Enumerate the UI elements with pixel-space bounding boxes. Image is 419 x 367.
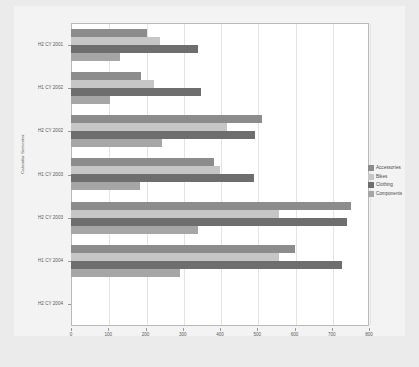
legend-item[interactable]: Clothing (368, 181, 402, 189)
bar (71, 158, 214, 166)
bar (71, 123, 227, 131)
x-axis-tick-mark (146, 328, 147, 331)
x-axis-tick-mark (220, 328, 221, 331)
legend-item-label: Bikes (376, 174, 387, 180)
bar (71, 96, 110, 104)
y-axis-tick-mark (68, 175, 71, 176)
bar (71, 174, 254, 182)
bar (71, 269, 180, 277)
bar-group (71, 23, 369, 66)
x-axis-tick-label: 700 (328, 332, 336, 337)
legend-item-label: Clothing (376, 182, 393, 188)
report-canvas: H2 CY 2001H1 CY 2002H2 CY 2002H1 CY 2003… (14, 6, 405, 336)
bar-group (71, 110, 369, 153)
bar (71, 88, 201, 96)
bars-layer (71, 23, 369, 326)
legend-swatch-icon (368, 165, 374, 171)
y-axis-tick-label: H1 CY 2003 (38, 172, 68, 178)
y-axis-tick-labels: H2 CY 2001H1 CY 2002H2 CY 2002H1 CY 2003… (14, 23, 68, 326)
bar (71, 131, 255, 139)
x-axis-tick-label: 200 (142, 332, 150, 337)
y-axis-tick-label: H2 CY 2003 (38, 215, 68, 221)
bar-group (71, 196, 369, 239)
chart-legend: AccessoriesBikesClothingComponents (366, 162, 404, 200)
x-axis-tick-label: 0 (70, 332, 73, 337)
bar-group (71, 153, 369, 196)
x-axis-tick-label: 300 (179, 332, 187, 337)
legend-swatch-icon (368, 182, 374, 188)
y-axis-tick-label: H1 CY 2002 (38, 85, 68, 91)
bar (71, 80, 154, 88)
y-axis-tick-mark (68, 45, 71, 46)
y-axis-tick-mark (68, 88, 71, 89)
legend-swatch-icon (368, 191, 374, 197)
bar (71, 253, 279, 261)
bar (71, 166, 220, 174)
x-axis-tick-mark (257, 328, 258, 331)
x-axis-tick-mark (108, 328, 109, 331)
bar (71, 115, 262, 123)
bar (71, 29, 147, 37)
y-axis-tick-label: H2 CY 2001 (38, 42, 68, 48)
y-axis-tick-mark (68, 261, 71, 262)
x-axis-tick-mark (295, 328, 296, 331)
legend-item-label: Components (376, 191, 402, 197)
legend-swatch-icon (368, 174, 374, 180)
y-axis-tick-label: H2 CY 2002 (38, 128, 68, 134)
bar (71, 182, 140, 190)
bar (71, 45, 198, 53)
y-axis-tick-label: H2 CY 2004 (38, 301, 68, 307)
bar (71, 53, 120, 61)
x-axis-tick-labels: 0100200300400500600700800 (71, 328, 369, 340)
bar-chart-report: H2 CY 2001H1 CY 2002H2 CY 2002H1 CY 2003… (0, 0, 419, 367)
legend-item[interactable]: Components (368, 190, 402, 198)
x-axis-tick-mark (183, 328, 184, 331)
bar (71, 202, 351, 210)
y-axis-tick-label: H1 CY 2004 (38, 258, 68, 264)
legend-item[interactable]: Bikes (368, 173, 402, 181)
y-axis-tick-mark (68, 304, 71, 305)
x-axis-tick-label: 600 (291, 332, 299, 337)
y-axis-title: Calendar Semester (20, 134, 25, 174)
x-axis-tick-mark (369, 328, 370, 331)
bar (71, 37, 160, 45)
x-axis-tick-label: 100 (104, 332, 112, 337)
legend-item[interactable]: Accessories (368, 164, 402, 172)
x-axis-tick-label: 800 (365, 332, 373, 337)
bar-group (71, 66, 369, 109)
bar (71, 218, 347, 226)
bar (71, 210, 279, 218)
x-axis-tick-label: 400 (216, 332, 224, 337)
y-axis-tick-mark (68, 218, 71, 219)
legend-item-label: Accessories (376, 165, 401, 171)
bar (71, 139, 162, 147)
x-axis-tick-mark (71, 328, 72, 331)
y-axis-tick-mark (68, 131, 71, 132)
bar (71, 72, 141, 80)
bar (71, 261, 342, 269)
bar-group (71, 283, 369, 326)
bar (71, 226, 198, 234)
bar (71, 245, 295, 253)
bar-group (71, 239, 369, 282)
x-axis-tick-mark (332, 328, 333, 331)
x-axis-tick-label: 500 (253, 332, 261, 337)
